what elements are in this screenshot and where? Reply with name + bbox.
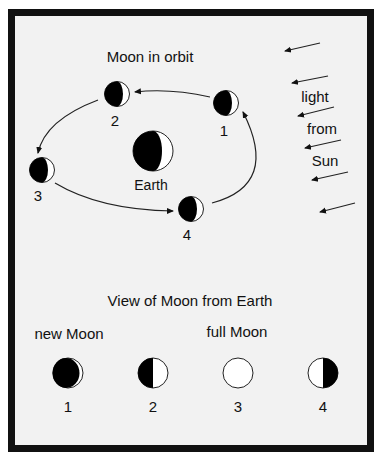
view-moon-2-label: 2 [149, 398, 157, 415]
view-moon-3-label: 3 [234, 398, 242, 415]
orbit-moon-4 [179, 196, 204, 221]
view-moon-3-full [223, 358, 253, 388]
orbit-moon-1 [214, 91, 239, 116]
view-moon-1-new [53, 358, 84, 388]
orbit-moon-1-label: 1 [220, 122, 228, 139]
sunlight-label-from: from [307, 120, 337, 137]
orbit-moon-2 [105, 82, 130, 107]
full-moon-caption: full Moon [207, 323, 268, 340]
view-title: View of Moon from Earth [108, 292, 273, 309]
sunlight-label-sun: Sun [312, 152, 339, 169]
orbit-title: Moon in orbit [107, 48, 195, 65]
view-moon-1-label: 1 [64, 398, 72, 415]
earth-label: Earth [134, 177, 167, 193]
new-moon-caption: new Moon [34, 325, 103, 342]
orbit-moon-2-label: 2 [111, 112, 119, 129]
view-moon-4-label: 4 [319, 398, 327, 415]
sunlight-label-light: light [301, 88, 329, 105]
earth [133, 131, 173, 171]
orbit-moon-3 [29, 158, 54, 183]
view-moon-4-half [308, 358, 338, 388]
view-moon-2-half [138, 358, 168, 388]
orbit-moon-3-label: 3 [34, 187, 42, 204]
orbit-moon-4-label: 4 [183, 226, 191, 243]
